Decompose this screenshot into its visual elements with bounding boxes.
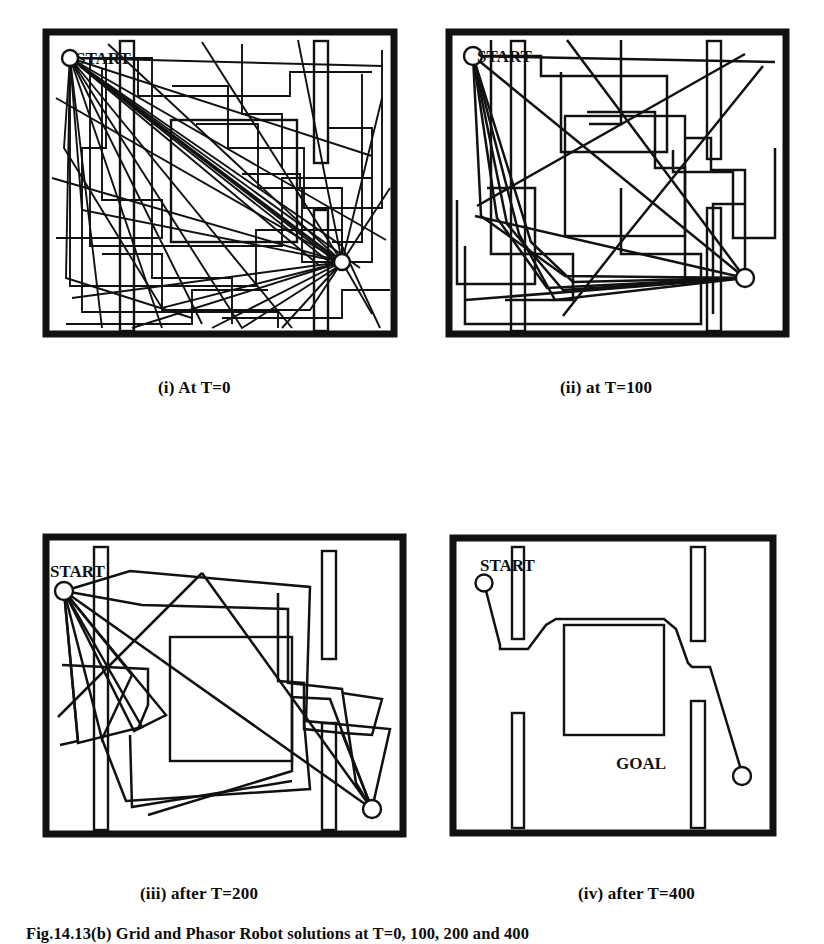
start-label: START: [477, 47, 532, 66]
panel-iv-canvas: START GOAL: [448, 533, 778, 838]
path-population: [58, 573, 372, 809]
goal-node: [733, 767, 751, 785]
left-lower-vertical-bar: [512, 713, 524, 828]
goal-node: [363, 800, 381, 818]
panel-ii-T100: START: [445, 28, 790, 338]
panel-iii-T200: START: [42, 533, 407, 838]
caption-panel-iii: (iii) after T=200: [140, 884, 258, 904]
panel-border: [46, 537, 403, 834]
goal-node: [736, 269, 754, 287]
start-label: START: [76, 49, 131, 68]
caption-panel-iv: (iv) after T=400: [578, 884, 695, 904]
central-square-block: [170, 637, 292, 761]
start-node: [476, 575, 493, 592]
panel-iii-canvas: START: [42, 533, 407, 838]
right-lower-vertical-bar: [691, 701, 705, 828]
start-label: START: [50, 562, 105, 581]
panel-i-T0: START: [42, 28, 398, 338]
left-vertical-bar: [120, 41, 134, 331]
left-vertical-bar: [94, 547, 108, 830]
converged-path: [484, 583, 742, 773]
right-upper-vertical-bar: [691, 547, 705, 641]
panel-iv-T400: START GOAL: [448, 533, 778, 838]
right-upper-vertical-bar: [707, 41, 721, 159]
start-label: START: [480, 556, 535, 575]
obstacle-group: [512, 547, 705, 828]
caption-panel-ii: (ii) at T=100: [560, 378, 652, 398]
goal-label: GOAL: [616, 754, 666, 773]
right-upper-vertical-bar: [322, 551, 336, 659]
panel-i-canvas: START: [42, 28, 398, 338]
central-square-block: [564, 625, 664, 735]
goal-node: [334, 254, 350, 270]
right-upper-vertical-bar: [314, 41, 328, 163]
caption-panel-i: (i) At T=0: [158, 378, 231, 398]
panel-ii-canvas: START: [445, 28, 790, 338]
start-node: [55, 582, 73, 600]
path-orthogonal-routes: [60, 571, 390, 815]
figure-caption: Fig.14.13(b) Grid and Phasor Robot solut…: [26, 924, 816, 944]
panel-border: [453, 538, 773, 833]
